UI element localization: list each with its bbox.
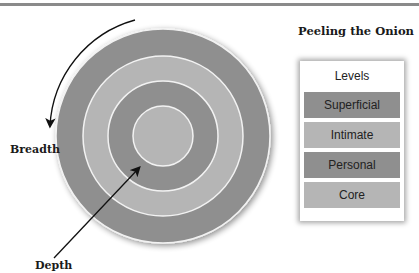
legend: Levels Superficial Intimate Personal Cor…: [300, 61, 404, 221]
onion-rings: [56, 29, 270, 243]
depth-label: Depth: [35, 259, 72, 272]
legend-item-core: Core: [304, 182, 400, 208]
diagram-title: Peeling the Onion: [296, 24, 416, 38]
breadth-label: Breadth: [10, 143, 60, 156]
legend-header: Levels: [300, 69, 404, 83]
legend-item-intimate: Intimate: [304, 122, 400, 148]
legend-item-superficial: Superficial: [304, 92, 400, 118]
ring-core: [133, 106, 193, 166]
legend-item-personal: Personal: [304, 152, 400, 178]
